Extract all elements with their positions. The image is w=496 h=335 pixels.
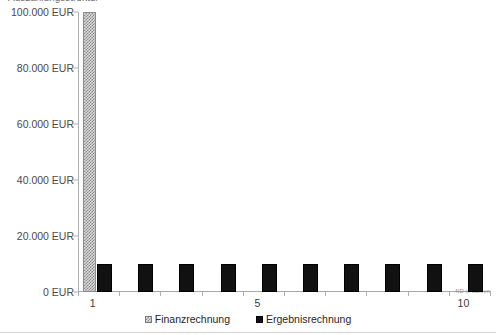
legend-item-label: Finanzrechnung bbox=[155, 313, 230, 325]
bar-ergebnisrechnung[interactable] bbox=[179, 264, 194, 292]
y-axis-tick-label: 40.000 EUR bbox=[17, 174, 74, 186]
x-axis-tick-label: 10 bbox=[458, 297, 470, 309]
y-axis-labels: 0 EUR20.000 EUR40.000 EUR60.000 EUR80.00… bbox=[0, 0, 74, 335]
x-axis-tick-mark bbox=[366, 292, 367, 296]
legend-item-finanzrechnung[interactable]: Finanzrechnung bbox=[145, 313, 230, 325]
x-axis-tick-mark bbox=[325, 292, 326, 296]
legend-item-ergebnisrechnung[interactable]: Ergebnisrechnung bbox=[256, 313, 351, 325]
bar-ergebnisrechnung[interactable] bbox=[262, 264, 277, 292]
bar-group bbox=[408, 12, 449, 292]
chart-legend: Finanzrechnung Ergebnisrechnung bbox=[0, 313, 496, 325]
bar-group bbox=[366, 12, 407, 292]
bar-group bbox=[449, 12, 490, 292]
x-axis-tick-mark bbox=[449, 292, 450, 296]
y-axis-tick-label: 0 EUR bbox=[43, 286, 74, 298]
bottom-divider bbox=[0, 332, 496, 333]
bar-ergebnisrechnung[interactable] bbox=[138, 264, 153, 292]
bar-chart: Auszahlungsstruktur 0 EUR20.000 EUR40.00… bbox=[0, 0, 496, 335]
bar-group bbox=[78, 12, 119, 292]
bar-group bbox=[325, 12, 366, 292]
solid-swatch-icon bbox=[256, 316, 263, 323]
bar-group bbox=[243, 12, 284, 292]
bar-ergebnisrechnung[interactable] bbox=[97, 264, 112, 292]
y-axis-tick-label: 20.000 EUR bbox=[17, 230, 74, 242]
y-axis-tick-label: 60.000 EUR bbox=[17, 118, 74, 130]
x-axis-tick-mark bbox=[160, 292, 161, 296]
x-axis-tick-mark bbox=[78, 292, 79, 296]
bar-group bbox=[119, 12, 160, 292]
x-axis-tick-label: 5 bbox=[254, 297, 260, 309]
y-axis-tick-label: 80.000 EUR bbox=[17, 62, 74, 74]
x-axis-tick-mark bbox=[490, 292, 491, 296]
bar-finanzrechnung[interactable] bbox=[83, 12, 96, 292]
bar-ergebnisrechnung[interactable] bbox=[303, 264, 318, 292]
bar-group bbox=[202, 12, 243, 292]
x-axis-tick-mark bbox=[408, 292, 409, 296]
legend-item-label: Ergebnisrechnung bbox=[266, 313, 351, 325]
bar-group bbox=[284, 12, 325, 292]
y-axis-tick-label: 100.000 EUR bbox=[11, 6, 74, 18]
x-axis-tick-mark bbox=[284, 292, 285, 296]
x-axis-tick-mark bbox=[202, 292, 203, 296]
bar-ergebnisrechnung[interactable] bbox=[221, 264, 236, 292]
x-axis-tick-mark bbox=[243, 292, 244, 296]
bar-ergebnisrechnung[interactable] bbox=[427, 264, 442, 292]
bar-ergebnisrechnung[interactable] bbox=[344, 264, 359, 292]
bar-group bbox=[160, 12, 201, 292]
bar-ergebnisrechnung[interactable] bbox=[468, 264, 483, 292]
x-axis-tick-mark bbox=[119, 292, 120, 296]
checkered-swatch-icon bbox=[145, 316, 152, 323]
bar-ergebnisrechnung[interactable] bbox=[385, 264, 400, 292]
x-axis-tick-label: 1 bbox=[90, 297, 96, 309]
